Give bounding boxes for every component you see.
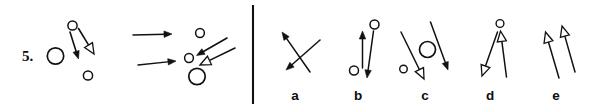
- figure-root: 5. abcde: [0, 0, 607, 110]
- option-label-b: b: [354, 88, 362, 103]
- small-circle-bottom: [83, 71, 92, 80]
- large-circle-bottom: [189, 68, 205, 84]
- option-label-e: e: [552, 88, 560, 103]
- small-circle-left: [400, 65, 408, 73]
- question-figure-canvas: 5. abcde: [0, 0, 607, 110]
- large-circle-center: [420, 42, 436, 58]
- small-circle-top-right: [370, 20, 379, 29]
- small-circle-top: [496, 20, 504, 28]
- small-circle-top: [196, 29, 205, 38]
- small-circle-bottom-left: [350, 66, 359, 75]
- option-label-c: c: [421, 88, 429, 103]
- option-label-d: d: [486, 88, 494, 103]
- arrow-shaft: [133, 34, 166, 35]
- small-circle-top: [68, 21, 77, 30]
- option-label-a: a: [291, 88, 299, 103]
- small-circle-left: [185, 54, 194, 63]
- large-circle: [47, 48, 63, 64]
- question-number: 5.: [22, 48, 34, 64]
